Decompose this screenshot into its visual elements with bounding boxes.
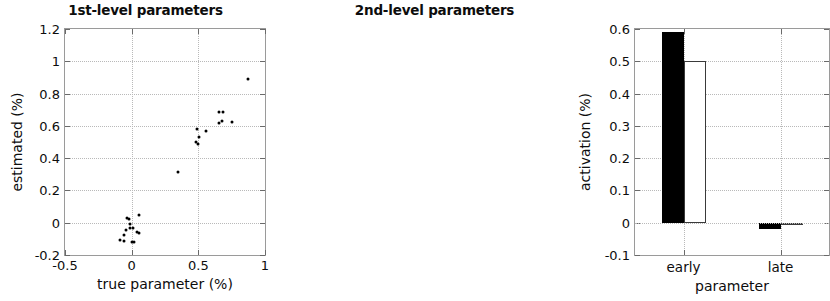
y-axis-tick: [65, 190, 70, 191]
x-axis-tick: [198, 29, 199, 34]
y-axis-tick: [65, 255, 70, 256]
scatter-point: [138, 213, 141, 216]
y-axis-tick-label: -0.1: [605, 248, 630, 263]
x-axis-tick: [781, 250, 782, 255]
y-axis-tick: [824, 61, 829, 62]
y-axis-tick: [635, 126, 640, 127]
category-label-late: late: [768, 259, 794, 275]
y-axis-tick: [260, 190, 265, 191]
panel-2nd-level-parameters: 2nd-level parameters -0.100.10.20.30.40.…: [287, 0, 574, 301]
scatter-point: [129, 222, 132, 225]
x-gridline: [132, 29, 133, 255]
x-axis-label-left: true parameter (%): [64, 276, 266, 292]
scatter-point: [196, 128, 199, 131]
y-axis-tick: [824, 158, 829, 159]
scatter-point: [218, 111, 221, 114]
zero-baseline: [635, 223, 829, 224]
x-axis-tick: [132, 29, 133, 34]
x-axis-tick: [65, 29, 66, 34]
y-axis-label-left: estimated (%): [9, 72, 25, 212]
panel-1st-level-parameters: 1st-level parameters -0.200.20.40.60.811…: [0, 0, 287, 301]
y-axis-tick: [635, 94, 640, 95]
y-gridline: [65, 223, 265, 224]
bar-chart-axes: -0.100.10.20.30.40.50.6earlylate: [634, 28, 830, 256]
x-axis-tick-label: 0: [128, 258, 136, 273]
y-axis-tick: [65, 223, 70, 224]
y-axis-tick: [635, 158, 640, 159]
y-axis-tick-label: 0.1: [609, 183, 630, 198]
y-axis-tick: [635, 61, 640, 62]
y-axis-tick: [824, 29, 829, 30]
y-axis-tick: [635, 255, 640, 256]
y-axis-tick: [65, 94, 70, 95]
x-axis-label-right: parameter: [634, 278, 830, 294]
y-axis-tick: [260, 223, 265, 224]
y-axis-tick-label: 0.8: [39, 86, 60, 101]
y-axis-tick-label: 0.3: [609, 118, 630, 133]
x-axis-tick-label: -0.5: [52, 258, 77, 273]
scatter-point: [176, 170, 179, 173]
y-axis-tick: [260, 126, 265, 127]
scatter-point: [231, 120, 234, 123]
scatter-point: [205, 129, 208, 132]
x-axis-tick-label: 0.5: [188, 258, 209, 273]
scatter-point: [246, 78, 249, 81]
scatter-point: [122, 233, 125, 236]
y-gridline: [65, 190, 265, 191]
y-axis-label-right: activation (%): [577, 72, 593, 212]
page-title-right: 2nd-level parameters: [291, 2, 578, 18]
scatter-point: [198, 136, 201, 139]
y-gridline: [65, 61, 265, 62]
scatter-point: [221, 120, 224, 123]
scatter-plot-axes: -0.200.20.40.60.811.2-0.500.51: [64, 28, 266, 256]
y-axis-tick-label: 0.6: [39, 118, 60, 133]
scatter-point: [196, 143, 199, 146]
scatter-point: [138, 232, 141, 235]
page-title-left: 1st-level parameters: [2, 2, 289, 18]
x-axis-tick: [65, 250, 66, 255]
y-axis-tick: [260, 94, 265, 95]
y-axis-tick-label: 0.4: [609, 86, 630, 101]
category-gridline: [781, 29, 782, 255]
y-axis-tick-label: 0.6: [609, 22, 630, 37]
x-axis-tick: [781, 29, 782, 34]
scatter-point: [122, 240, 125, 243]
y-axis-tick-label: 0: [52, 215, 60, 230]
scatter-point: [132, 226, 135, 229]
bar-early-hollow: [684, 61, 706, 222]
y-gridline: [65, 126, 265, 127]
y-axis-tick: [824, 190, 829, 191]
y-axis-tick-label: 1.2: [39, 22, 60, 37]
y-axis-tick: [824, 94, 829, 95]
scatter-point: [128, 218, 131, 221]
x-axis-tick: [198, 250, 199, 255]
y-axis-tick-label: 1: [52, 54, 60, 69]
y-axis-tick: [635, 29, 640, 30]
y-axis-tick: [65, 158, 70, 159]
y-axis-tick-label: 0.2: [39, 183, 60, 198]
scatter-point: [222, 111, 225, 114]
y-axis-tick-label: 0.2: [609, 151, 630, 166]
x-axis-tick: [265, 29, 266, 34]
scatter-point: [133, 240, 136, 243]
y-gridline: [65, 158, 265, 159]
y-axis-tick: [824, 126, 829, 127]
category-label-early: early: [667, 259, 701, 275]
y-axis-tick: [260, 255, 265, 256]
scatter-point: [125, 228, 128, 231]
bar-early-filled: [662, 32, 684, 222]
x-axis-tick: [265, 250, 266, 255]
y-gridline: [65, 94, 265, 95]
y-axis-tick-label: 0: [622, 215, 630, 230]
scatter-point: [218, 121, 221, 124]
y-axis-tick: [260, 158, 265, 159]
y-axis-tick-label: 0.5: [609, 54, 630, 69]
x-axis-tick: [132, 250, 133, 255]
x-axis-tick: [684, 29, 685, 34]
x-axis-tick-label: 1: [261, 258, 269, 273]
y-axis-tick: [65, 61, 70, 62]
y-axis-tick: [824, 255, 829, 256]
y-axis-tick-label: 0.4: [39, 151, 60, 166]
x-axis-tick: [684, 250, 685, 255]
